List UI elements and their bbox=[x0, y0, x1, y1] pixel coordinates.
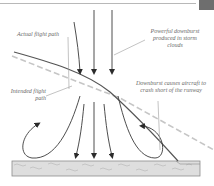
label-intended-flight-path: Intended flight path bbox=[10, 88, 46, 102]
label-powerful-downburst: Powerful downburst produced in storm clo… bbox=[145, 28, 205, 49]
runway bbox=[12, 161, 200, 176]
label-downburst-causes-crash: Downburst causes aircraft to crash short… bbox=[133, 80, 209, 94]
diagram-frame: Actual flight path Powerful downburst pr… bbox=[0, 0, 214, 186]
downdraft-arrows-bottom bbox=[76, 102, 112, 156]
outflow-curl-left bbox=[23, 96, 80, 158]
downdraft-arrows-top bbox=[74, 10, 112, 72]
label-actual-flight-path: Actual flight path bbox=[17, 31, 69, 38]
actual-flight-path-line bbox=[14, 52, 178, 161]
intended-flight-path-line bbox=[12, 56, 214, 150]
